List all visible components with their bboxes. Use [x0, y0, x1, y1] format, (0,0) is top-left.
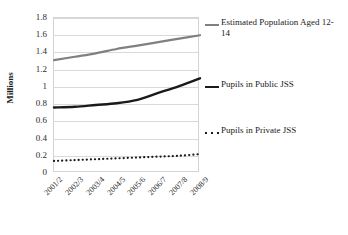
y-tick-label: 0.2 — [0, 150, 47, 159]
line-chart: Millions 00.20.40.60.811.21.41.61.8 2001… — [0, 0, 348, 235]
y-tick-label: 0 — [0, 168, 47, 177]
y-tick-label: 1.4 — [0, 47, 47, 56]
plot-area — [53, 17, 199, 172]
series-line — [54, 35, 200, 60]
series-container — [54, 18, 200, 173]
legend-entry[interactable]: Pupils in Private JSS — [205, 125, 341, 137]
legend-label: Pupils in Public JSS — [221, 79, 341, 90]
legend-swatch-icon — [205, 21, 219, 29]
legend-label: Pupils in Private JSS — [221, 125, 341, 136]
legend-label: Estimated Population Aged 12-14 — [221, 17, 341, 39]
legend-entry[interactable]: Pupils in Public JSS — [205, 79, 341, 91]
y-tick-label: 1 — [0, 81, 47, 90]
series-line — [54, 78, 200, 107]
y-tick-label: 0.6 — [0, 116, 47, 125]
y-tick-label: 0.8 — [0, 99, 47, 108]
series-line — [54, 154, 200, 161]
y-tick-label: 1.2 — [0, 64, 47, 73]
y-tick-label: 1.6 — [0, 30, 47, 39]
y-tick-label: 1.8 — [0, 13, 47, 22]
y-tick-label: 0.4 — [0, 133, 47, 142]
legend-swatch-icon — [205, 129, 219, 137]
legend-entry[interactable]: Estimated Population Aged 12-14 — [205, 17, 341, 39]
legend-swatch-icon — [205, 83, 219, 91]
